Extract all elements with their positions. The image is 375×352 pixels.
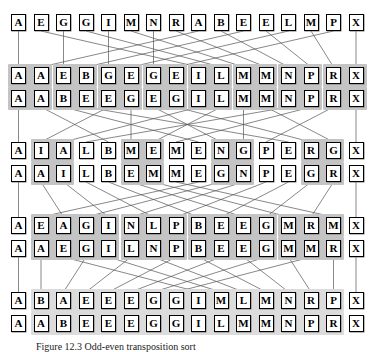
element-box: M [169, 165, 184, 182]
element-box: N [281, 90, 296, 107]
element-box: G [79, 240, 94, 257]
element-box: X [349, 90, 364, 107]
element-box: A [56, 142, 71, 159]
element-box: G [259, 240, 274, 257]
element-box: A [11, 67, 26, 84]
element-box: M [281, 240, 296, 257]
connector-line [154, 107, 222, 142]
element-box: X [349, 315, 364, 332]
element-box: E [191, 142, 206, 159]
element-box: I [56, 165, 71, 182]
connector-line [41, 107, 109, 142]
element-box: A [11, 142, 26, 159]
element-box: A [11, 240, 26, 257]
element-box: I [191, 90, 206, 107]
element-box: A [11, 217, 26, 234]
element-box: B [101, 165, 116, 182]
connector-line [221, 182, 289, 217]
connector-line [266, 182, 311, 217]
connector-line [86, 257, 131, 292]
element-box: P [304, 67, 319, 84]
element-box: I [191, 67, 206, 84]
element-box: E [101, 90, 116, 107]
element-box: E [56, 67, 71, 84]
element-box: E [124, 67, 139, 84]
element-box: B [56, 315, 71, 332]
element-box: N [236, 165, 251, 182]
element-box: B [79, 67, 94, 84]
element-box: M [146, 165, 161, 182]
element-box: E [79, 292, 94, 309]
element-box: B [191, 240, 206, 257]
element-box: I [101, 14, 116, 31]
element-box: E [236, 217, 251, 234]
element-box: A [34, 67, 49, 84]
element-box: P [304, 315, 319, 332]
connector-line [266, 31, 311, 67]
element-box: E [214, 217, 229, 234]
element-box: P [304, 90, 319, 107]
element-box: P [259, 142, 274, 159]
element-box: M [236, 315, 251, 332]
element-box: L [214, 90, 229, 107]
element-box: M [304, 240, 319, 257]
element-box: E [191, 165, 206, 182]
element-box: G [124, 90, 139, 107]
element-box: M [259, 292, 274, 309]
element-box: B [34, 292, 49, 309]
connector-line [266, 107, 334, 142]
figure-caption: Figure 12.3 Odd-even transposition sort [36, 341, 366, 352]
element-box: I [101, 240, 116, 257]
element-box: L [146, 217, 161, 234]
element-box: B [191, 217, 206, 234]
element-box: N [214, 142, 229, 159]
element-box: N [281, 67, 296, 84]
element-box: B [101, 142, 116, 159]
element-box: E [34, 14, 49, 31]
connector-line [266, 107, 334, 142]
element-box: X [349, 165, 364, 182]
element-box: A [34, 165, 49, 182]
element-box: G [146, 315, 161, 332]
connector-line [199, 257, 267, 292]
connector-line [64, 182, 109, 217]
element-box: P [169, 240, 184, 257]
element-box: G [146, 292, 161, 309]
connector-line [154, 182, 289, 217]
element-box: A [34, 90, 49, 107]
element-box: A [56, 217, 71, 234]
element-box: M [259, 90, 274, 107]
connector-line [86, 107, 289, 142]
connector-line [176, 257, 311, 292]
connector-line [176, 31, 266, 67]
element-box: M [259, 315, 274, 332]
element-box: P [326, 14, 341, 31]
element-box: R [326, 240, 341, 257]
connector-line [64, 257, 199, 292]
connector-line [86, 107, 289, 142]
element-box: N [146, 14, 161, 31]
element-box: M [124, 14, 139, 31]
connector-line [41, 31, 199, 67]
connector-line [131, 182, 244, 217]
element-box: X [349, 217, 364, 234]
element-box: E [124, 292, 139, 309]
element-box: L [236, 292, 251, 309]
connector-line [176, 182, 334, 217]
element-box: M [326, 217, 341, 234]
element-box: E [124, 165, 139, 182]
connector-line [221, 31, 289, 67]
element-box: N [146, 240, 161, 257]
connector-line [176, 31, 334, 67]
element-box: I [191, 292, 206, 309]
element-box: E [79, 315, 94, 332]
element-box: G [56, 14, 71, 31]
element-box: X [349, 67, 364, 84]
element-box: M [236, 67, 251, 84]
element-box: A [11, 292, 26, 309]
element-box: X [349, 292, 364, 309]
element-box: L [79, 142, 94, 159]
element-box: A [11, 315, 26, 332]
element-box: I [191, 315, 206, 332]
element-box: B [214, 14, 229, 31]
